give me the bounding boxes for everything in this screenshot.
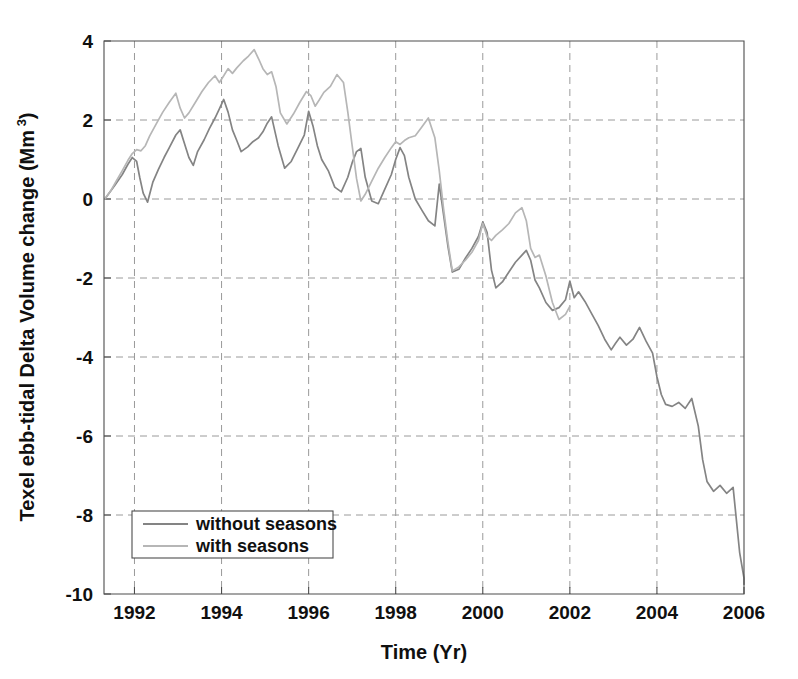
x-tick-label: 1996: [287, 602, 329, 623]
y-tick-label: -2: [76, 268, 93, 289]
chart-figure: 420-2-4-6-8-1019921994199619982000200220…: [0, 0, 798, 679]
chart-legend[interactable]: without seasonswith seasons: [132, 511, 337, 558]
legend-label-without-seasons: without seasons: [195, 514, 337, 534]
x-tick-label: 2000: [462, 602, 504, 623]
y-tick-label: -6: [76, 426, 93, 447]
x-tick-label: 2004: [636, 602, 679, 623]
y-tick-label: -10: [66, 584, 93, 605]
x-tick-label: 1994: [200, 602, 243, 623]
y-tick-label: 0: [82, 189, 93, 210]
y-tick-label: -4: [76, 347, 93, 368]
y-tick-label: 2: [82, 110, 93, 131]
x-tick-label: 2006: [723, 602, 765, 623]
y-axis-title: Texel ebb-tidal Delta Volume change (Mm …: [14, 112, 38, 521]
y-tick-label: 4: [82, 31, 93, 52]
y-tick-label: -8: [76, 505, 93, 526]
x-axis-title: Time (Yr): [381, 641, 467, 663]
line-chart-svg: 420-2-4-6-8-1019921994199619982000200220…: [0, 0, 798, 679]
series-line-with-seasons: [105, 50, 570, 320]
y-axis-title-group: Texel ebb-tidal Delta Volume change (Mm …: [14, 112, 38, 521]
x-tick-label: 1998: [375, 602, 417, 623]
data-series-group: [105, 50, 744, 584]
x-tick-label: 1992: [113, 602, 155, 623]
legend-label-with-seasons: with seasons: [195, 536, 309, 556]
x-tick-label: 2002: [549, 602, 591, 623]
